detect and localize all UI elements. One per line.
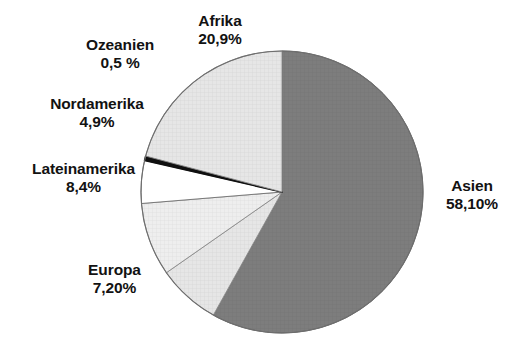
pie-label-ozeanien-name: Ozeanien bbox=[55, 36, 185, 54]
pie-label-lateinamerika: Lateinamerika 8,4% bbox=[6, 160, 161, 197]
pie-label-asien-value: 58,10% bbox=[430, 195, 514, 213]
pie-label-asien-name: Asien bbox=[430, 177, 514, 195]
pie-label-lateinamerika-name: Lateinamerika bbox=[6, 160, 161, 178]
pie-label-europa-value: 7,20% bbox=[52, 279, 177, 297]
pie-label-lateinamerika-value: 8,4% bbox=[6, 178, 161, 196]
pie-label-asien: Asien 58,10% bbox=[430, 177, 514, 214]
pie-label-ozeanien-value: 0,5 % bbox=[55, 54, 185, 72]
pie-label-nordamerika: Nordamerika 4,9% bbox=[22, 95, 172, 132]
pie-label-europa-name: Europa bbox=[52, 261, 177, 279]
pie-label-afrika-name: Afrika bbox=[160, 12, 280, 30]
pie-label-nordamerika-name: Nordamerika bbox=[22, 95, 172, 113]
pie-label-nordamerika-value: 4,9% bbox=[22, 113, 172, 131]
pie-slices-group bbox=[141, 51, 423, 333]
pie-label-ozeanien: Ozeanien 0,5 % bbox=[55, 36, 185, 73]
pie-label-europa: Europa 7,20% bbox=[52, 261, 177, 298]
pie-chart-figure: Afrika 20,9% Ozeanien 0,5 % Nordamerika … bbox=[0, 0, 520, 351]
